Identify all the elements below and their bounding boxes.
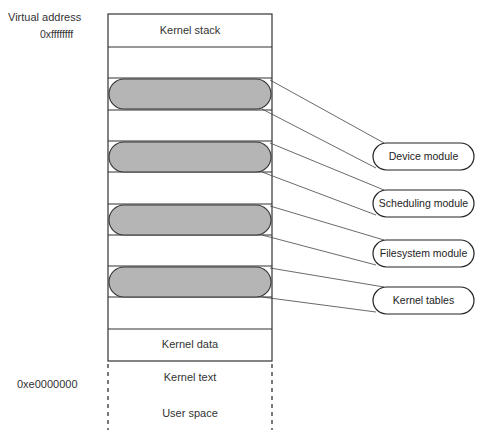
bottom-address-label: 0xe0000000	[17, 378, 78, 390]
region-kernel-text: Kernel text	[108, 371, 272, 383]
scheduling-module-label: Scheduling module	[373, 197, 474, 209]
filesystem-module-label: Filesystem module	[373, 247, 474, 259]
module-slot-1	[109, 79, 271, 109]
module-slot-4	[109, 267, 271, 297]
module-slot-2	[109, 142, 271, 172]
module-slot-3	[109, 205, 271, 235]
kernel-tables-label: Kernel tables	[373, 294, 474, 306]
kernel-address-space-column	[108, 14, 272, 361]
region-kernel-stack: Kernel stack	[108, 24, 272, 36]
virtual-address-header: Virtual address	[8, 11, 81, 23]
top-address-label: 0xffffffff	[40, 28, 73, 40]
region-kernel-data: Kernel data	[108, 338, 272, 350]
connector-lines	[262, 80, 384, 312]
region-user-space: User space	[108, 407, 272, 419]
device-module-label: Device module	[373, 150, 474, 162]
